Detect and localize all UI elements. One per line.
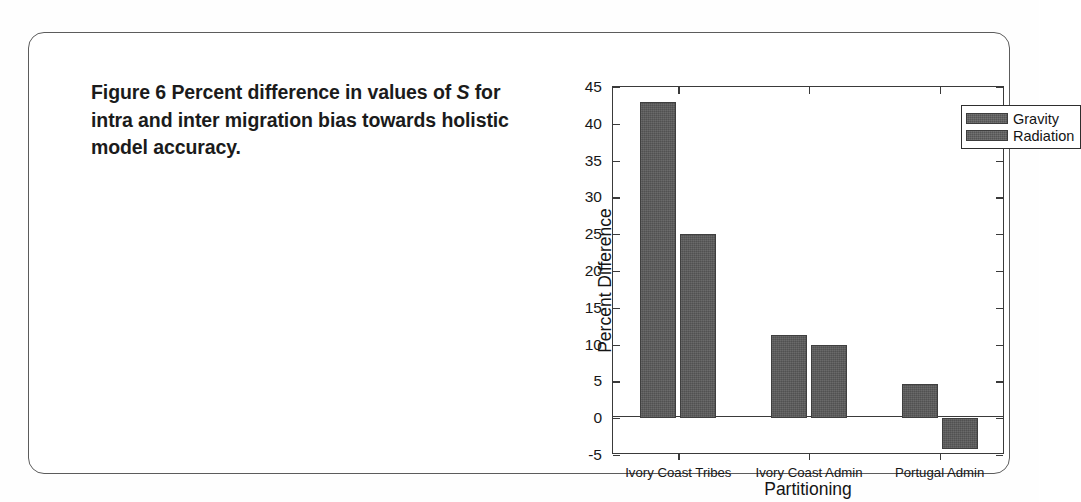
- bar-gravity: [640, 102, 676, 418]
- bar-gravity: [771, 335, 807, 418]
- y-tick-label: 40: [585, 115, 602, 133]
- legend-label-gravity: Gravity: [1013, 111, 1059, 127]
- figure-caption: Figure 6 Percent difference in values of…: [91, 79, 511, 162]
- y-tick-mark-right: [996, 87, 1003, 88]
- y-tick-mark-right: [996, 197, 1003, 198]
- x-axis-title: Partitioning: [612, 479, 1004, 500]
- y-tick-label: 5: [593, 372, 602, 390]
- y-tick-label: 15: [585, 299, 602, 317]
- plot-area: -5051015202530354045 Ivory Coast TribesI…: [612, 86, 1004, 454]
- y-tick-mark: [613, 197, 620, 198]
- chart-legend: Gravity Radiation: [961, 105, 1081, 149]
- bar-radiation: [942, 418, 978, 449]
- y-tick-mark-right: [996, 455, 1003, 456]
- y-tick-label: 45: [585, 78, 602, 96]
- y-tick-mark: [613, 308, 620, 309]
- legend-swatch-gravity: [966, 113, 1008, 124]
- y-tick-mark: [613, 234, 620, 235]
- y-tick-mark-right: [996, 345, 1003, 346]
- y-tick-mark: [613, 271, 620, 272]
- x-tick-mark: [809, 453, 810, 460]
- y-tick-mark: [613, 345, 620, 346]
- bar-radiation: [811, 345, 847, 419]
- y-tick-mark: [613, 161, 620, 162]
- y-tick-mark: [613, 124, 620, 125]
- y-tick-label: 0: [593, 409, 602, 427]
- y-tick-label: 20: [585, 262, 602, 280]
- y-tick-mark-right: [996, 381, 1003, 382]
- y-tick-label: 10: [585, 336, 602, 354]
- y-tick-mark-right: [996, 161, 1003, 162]
- y-tick-mark: [613, 455, 620, 456]
- y-tick-mark-right: [996, 271, 1003, 272]
- x-tick-mark-top: [678, 87, 679, 94]
- caption-figure-number: Figure 6: [91, 81, 166, 103]
- x-tick-mark: [940, 453, 941, 460]
- y-tick-label: -5: [588, 446, 602, 464]
- legend-item-radiation: Radiation: [966, 127, 1074, 144]
- bar-chart: Percent Difference -5051015202530354045 …: [539, 73, 1039, 502]
- legend-label-radiation: Radiation: [1013, 128, 1074, 144]
- y-tick-label: 25: [585, 225, 602, 243]
- bar-radiation: [680, 234, 716, 418]
- y-tick-mark-right: [996, 234, 1003, 235]
- figure-frame: Figure 6 Percent difference in values of…: [28, 32, 1010, 474]
- x-tick-mark-top: [809, 87, 810, 94]
- x-tick-mark: [678, 453, 679, 460]
- y-tick-label: 30: [585, 188, 602, 206]
- x-tick-label: Ivory Coast Tribes: [625, 465, 731, 480]
- x-tick-mark-top: [940, 87, 941, 94]
- y-tick-mark-right: [996, 418, 1003, 419]
- y-tick-mark-right: [996, 308, 1003, 309]
- x-tick-label: Ivory Coast Admin: [755, 465, 862, 480]
- x-tick-label: Portugal Admin: [895, 465, 984, 480]
- y-tick-label: 35: [585, 152, 602, 170]
- legend-item-gravity: Gravity: [966, 110, 1074, 127]
- bar-gravity: [902, 384, 938, 418]
- caption-italic-symbol: S: [456, 81, 469, 103]
- y-tick-mark: [613, 87, 620, 88]
- y-tick-mark: [613, 381, 620, 382]
- y-tick-mark: [613, 418, 620, 419]
- caption-text-before-italic: Percent difference in values of: [166, 81, 456, 103]
- legend-swatch-radiation: [966, 130, 1008, 141]
